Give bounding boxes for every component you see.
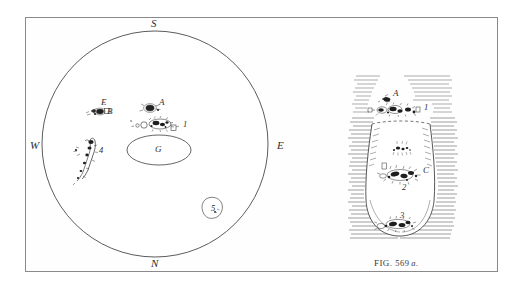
spot-group-label-B: B [107,107,113,116]
figure-caption: FIG.569a. [374,258,494,268]
spot-group-label-E: E [101,98,107,107]
spot-group-label-A: A [159,98,165,107]
compass-label-south: S [151,18,157,29]
detail-spot-label-A: A [393,89,399,98]
detail-spot-label-2: 2 [402,183,406,192]
central-region-label: G [155,145,162,154]
spot-group-label-4: 4 [99,146,103,155]
compass-label-north: N [151,258,158,269]
plate-border [25,17,498,272]
engraving-plate: S N W E G E B A 1 4 5 A 1 C 2 3 FIG.569a… [0,0,525,290]
detail-spot-label-1: 1 [424,103,428,112]
compass-label-west: W [30,140,39,151]
compass-label-east: E [277,140,284,151]
detail-spot-label-C: C [423,166,429,175]
caption-suffix: a. [411,258,418,268]
caption-prefix: FIG. [374,258,392,268]
detail-spot-label-3: 3 [400,211,404,220]
spot-group-label-1: 1 [183,120,187,129]
spot-group-label-5: 5 [211,204,215,213]
caption-number: 569 [395,258,409,268]
